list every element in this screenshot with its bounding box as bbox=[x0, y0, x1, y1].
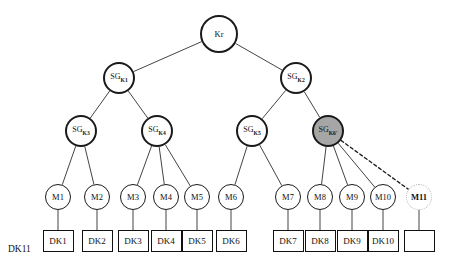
edge-sgk5-to-m7 bbox=[260, 145, 282, 186]
edge-sgk4-to-m3 bbox=[137, 146, 151, 185]
node-sgk5[interactable]: SGK5 bbox=[236, 115, 268, 147]
node-label-subscript: K1 bbox=[121, 77, 128, 83]
diagram-canvas: KrSGK1SGK2SGK3SGK4SGK5SGK6'M1M2M3M4M5M6M… bbox=[0, 0, 450, 266]
box-label: DK8 bbox=[311, 237, 329, 246]
box-label: DK7 bbox=[279, 237, 297, 246]
edge-sgk2-to-sgk6 bbox=[304, 92, 319, 118]
node-label-subscript: K4 bbox=[159, 130, 166, 136]
node-label: SGK4 bbox=[148, 126, 165, 136]
node-m7[interactable]: M7 bbox=[275, 184, 301, 210]
box-dk10[interactable]: DK10 bbox=[368, 230, 399, 252]
edge-kr-to-sgk2 bbox=[235, 43, 282, 70]
box-label: DK2 bbox=[88, 237, 106, 246]
node-label-subscript: K2 bbox=[298, 77, 305, 83]
node-m3[interactable]: M3 bbox=[120, 184, 146, 210]
edge-sgk4-to-m4 bbox=[159, 147, 164, 184]
box-label: DK5 bbox=[188, 237, 206, 246]
node-label: SGK2 bbox=[287, 73, 304, 83]
node-m9[interactable]: M9 bbox=[339, 184, 365, 210]
node-label: Kr bbox=[215, 30, 224, 39]
edge-sgk1-to-sgk4 bbox=[128, 91, 147, 118]
node-m5[interactable]: M5 bbox=[184, 184, 210, 210]
node-kr[interactable]: Kr bbox=[200, 15, 238, 53]
node-m4[interactable]: M4 bbox=[153, 184, 179, 210]
box-dk4[interactable]: DK4 bbox=[151, 230, 182, 252]
node-label: M3 bbox=[127, 193, 139, 202]
node-label: SGK5 bbox=[243, 126, 260, 136]
node-label: SGK6' bbox=[319, 126, 338, 136]
box-dk5[interactable]: DK5 bbox=[182, 230, 213, 252]
box-dk1[interactable]: DK1 bbox=[43, 230, 74, 252]
edge-sgk3-to-m1 bbox=[62, 146, 75, 185]
node-label: M6 bbox=[225, 193, 237, 202]
edge-sgk6-to-m8 bbox=[322, 147, 327, 184]
node-label: M4 bbox=[160, 193, 172, 202]
node-label: M10 bbox=[375, 193, 391, 202]
node-label: M8 bbox=[314, 193, 326, 202]
node-label: SGK1 bbox=[110, 73, 127, 83]
edge-sgk5-to-m6 bbox=[235, 146, 247, 184]
node-m6[interactable]: M6 bbox=[218, 184, 244, 210]
node-sgk1[interactable]: SGK1 bbox=[103, 62, 135, 94]
node-m1[interactable]: M1 bbox=[45, 184, 71, 210]
node-sgk4[interactable]: SGK4 bbox=[141, 115, 173, 147]
box-label: DK3 bbox=[124, 237, 142, 246]
node-label: M11 bbox=[411, 193, 427, 202]
node-label: M1 bbox=[52, 193, 64, 202]
box-dk9[interactable]: DK9 bbox=[337, 230, 368, 252]
box-label: DK6 bbox=[222, 237, 240, 246]
node-label: SGK3 bbox=[72, 126, 89, 136]
node-sgk2[interactable]: SGK2 bbox=[280, 62, 312, 94]
box-dk8[interactable]: DK8 bbox=[305, 230, 336, 252]
box-label: DK10 bbox=[372, 237, 394, 246]
edge-sgk1-to-sgk3 bbox=[90, 91, 109, 118]
node-m10[interactable]: M10 bbox=[370, 184, 396, 210]
box-label: DK4 bbox=[157, 237, 175, 246]
node-label: M9 bbox=[346, 193, 358, 202]
node-label-subscript: K6' bbox=[329, 130, 338, 136]
node-sgk6[interactable]: SGK6' bbox=[312, 115, 344, 147]
node-label-subscript: K3 bbox=[83, 130, 90, 136]
legend-label-dk11: DK11 bbox=[8, 244, 31, 254]
edge-sgk4-to-m5 bbox=[165, 145, 190, 186]
box-label: DK9 bbox=[343, 237, 361, 246]
box-dk7[interactable]: DK7 bbox=[273, 230, 304, 252]
node-m8[interactable]: M8 bbox=[307, 184, 333, 210]
edge-sgk2-to-sgk5 bbox=[262, 90, 286, 118]
edge-kr-to-sgk1 bbox=[134, 42, 202, 72]
edge-sgk6-to-m10 bbox=[338, 143, 374, 187]
box-dk11box[interactable] bbox=[404, 230, 435, 252]
node-m11[interactable]: M11 bbox=[406, 184, 432, 210]
box-dk3[interactable]: DK3 bbox=[118, 230, 149, 252]
edge-sgk3-to-m2 bbox=[85, 147, 94, 185]
node-label: M5 bbox=[191, 193, 203, 202]
node-sgk3[interactable]: SGK3 bbox=[65, 115, 97, 147]
node-m2[interactable]: M2 bbox=[84, 184, 110, 210]
node-label-subscript: K5 bbox=[254, 130, 261, 136]
node-label: M2 bbox=[91, 193, 103, 202]
box-dk2[interactable]: DK2 bbox=[82, 230, 113, 252]
box-label: DK1 bbox=[49, 237, 67, 246]
node-label: M7 bbox=[282, 193, 294, 202]
edge-sgk6-to-m11 bbox=[341, 140, 409, 189]
box-dk6[interactable]: DK6 bbox=[216, 230, 247, 252]
